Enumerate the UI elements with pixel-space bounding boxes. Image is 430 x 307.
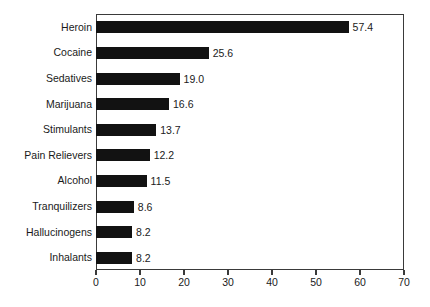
category-label: Hallucinogens	[0, 227, 92, 238]
x-axis-tick	[139, 270, 140, 275]
x-axis-tick	[183, 270, 184, 275]
bar	[96, 175, 147, 187]
bar	[96, 73, 180, 85]
bar-row: 13.7	[96, 124, 404, 136]
x-axis-tick-label: 40	[266, 277, 278, 288]
bar-row: 8.2	[96, 226, 404, 238]
bar-value-label: 11.5	[151, 176, 171, 187]
category-label: Cocaine	[0, 47, 92, 58]
x-axis-tick-label: 10	[134, 277, 146, 288]
bar	[96, 124, 156, 136]
bar	[96, 201, 134, 213]
bar-row: 25.6	[96, 47, 404, 59]
bar-value-label: 25.6	[213, 48, 233, 59]
bar-value-label: 12.2	[154, 150, 174, 161]
bar	[96, 252, 132, 264]
bar-row: 8.6	[96, 201, 404, 213]
category-axis-labels: HeroinCocaineSedativesMarijuanaStimulant…	[0, 14, 92, 270]
bar	[96, 149, 150, 161]
category-label: Tranquilizers	[0, 201, 92, 212]
x-axis-tick-label: 30	[222, 277, 234, 288]
category-label: Pain Relievers	[0, 150, 92, 161]
bar-row: 8.2	[96, 252, 404, 264]
category-label: Marijuana	[0, 99, 92, 110]
bar-row: 11.5	[96, 175, 404, 187]
bar-chart: HeroinCocaineSedativesMarijuanaStimulant…	[0, 0, 430, 307]
x-axis-tick	[315, 270, 316, 275]
bar-row: 16.6	[96, 98, 404, 110]
x-axis-tick-label: 20	[178, 277, 190, 288]
bar-value-label: 19.0	[184, 73, 204, 84]
category-label: Alcohol	[0, 175, 92, 186]
x-axis-tick	[403, 270, 404, 275]
bar	[96, 226, 132, 238]
bar-value-label: 8.2	[136, 252, 151, 263]
x-axis-tick	[95, 270, 96, 275]
bar	[96, 98, 169, 110]
category-label: Stimulants	[0, 124, 92, 135]
bar-value-label: 8.6	[138, 201, 153, 212]
bar	[96, 21, 349, 33]
category-label: Sedatives	[0, 73, 92, 84]
x-axis-tick	[359, 270, 360, 275]
x-axis-tick	[271, 270, 272, 275]
x-axis-tick-label: 50	[310, 277, 322, 288]
bar-value-label: 13.7	[160, 124, 180, 135]
category-label: Heroin	[0, 22, 92, 33]
bar-value-label: 57.4	[353, 22, 373, 33]
bar	[96, 47, 209, 59]
x-axis: 010203040506070	[96, 270, 404, 300]
x-axis-tick-label: 70	[398, 277, 410, 288]
bar-value-label: 16.6	[173, 99, 193, 110]
bar-row: 12.2	[96, 149, 404, 161]
x-axis-tick	[227, 270, 228, 275]
x-axis-tick-label: 60	[354, 277, 366, 288]
bars-layer: 57.425.619.016.613.712.211.58.68.28.2	[96, 14, 404, 270]
bar-row: 57.4	[96, 21, 404, 33]
bar-value-label: 8.2	[136, 227, 151, 238]
x-axis-tick-label: 0	[93, 277, 99, 288]
category-label: Inhalants	[0, 252, 92, 263]
bar-row: 19.0	[96, 73, 404, 85]
